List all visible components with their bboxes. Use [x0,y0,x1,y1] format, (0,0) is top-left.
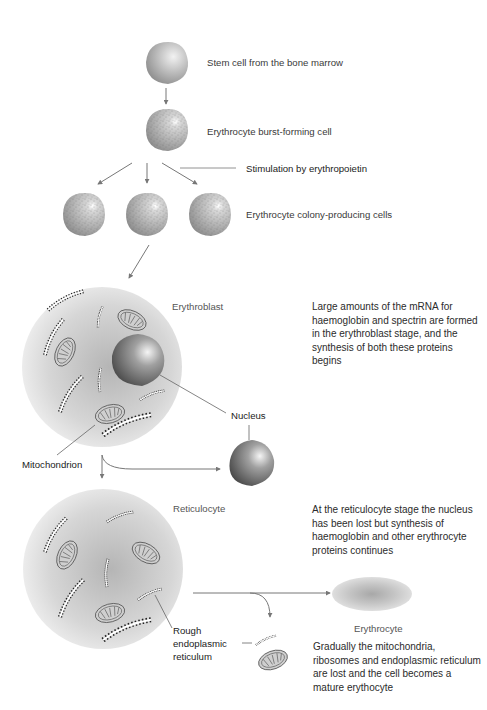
lost-mitochondrion [256,646,290,673]
expelled-nucleus [229,440,274,486]
label-rough-er-line2: endoplasmic [173,637,227,650]
stem-cell [146,42,188,84]
arrow-organelle-loss [250,593,270,617]
lost-er-fragment [255,635,276,645]
arrow-nucleus-expulsion [102,455,220,469]
nucleus-in-erythroblast [112,334,164,386]
description-erythroblast: Large amounts of the mRNA for haemoglobi… [312,300,480,368]
arrow-bfu-to-cfu-left [98,163,132,184]
arrow-cfu-to-erythroblast [129,245,149,278]
cfu-cell-3 [189,193,231,236]
reticulocyte-cell [23,489,183,649]
bfu-cell [146,109,188,151]
label-reticulocyte: Reticulocyte [173,502,225,515]
label-mitochondrion: Mitochondrion [22,458,82,471]
label-rough-er-line3: reticulum [173,650,212,663]
label-stem-cell: Stem cell from the bone marrow [207,56,343,69]
label-nucleus: Nucleus [231,409,266,422]
label-bfu: Erythrocyte burst-forming cell [207,125,332,138]
erythrocyte-cell [332,577,412,611]
erythroblast-cell [22,287,182,447]
label-rough-er-line1: Rough [173,624,201,637]
label-erythropoietin: Stimulation by erythropoietin [246,162,367,175]
description-reticulocyte: At the reticulocyte stage the nucleus ha… [312,503,480,557]
cfu-cell-1 [63,193,105,236]
label-cfu: Erythrocyte colony-producing cells [246,208,392,221]
label-erythroblast: Erythroblast [172,300,223,313]
description-erythrocyte: Gradually the mitochondria, ribosomes an… [313,640,483,694]
label-erythrocyte: Erythrocyte [354,622,403,635]
cfu-cell-2 [126,193,168,236]
arrow-bfu-to-cfu-right [162,163,197,184]
